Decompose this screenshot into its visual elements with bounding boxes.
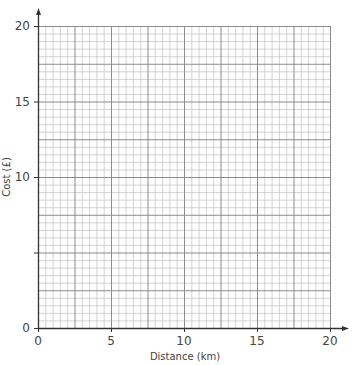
x-tick-label-15: 15 xyxy=(249,335,264,347)
y-axis-title: Cost (£) xyxy=(1,157,12,197)
graph-paper xyxy=(0,0,363,365)
y-tick-label-0: 0 xyxy=(0,322,30,334)
y-tick-label-20: 20 xyxy=(0,20,30,32)
x-tick-label-0: 0 xyxy=(34,335,42,347)
y-axis-arrow-icon xyxy=(36,8,41,15)
x-tick-label-10: 10 xyxy=(176,335,191,347)
y-tick-label-15: 15 xyxy=(0,96,30,108)
x-tick-label-20: 20 xyxy=(322,335,337,347)
x-tick-label-5: 5 xyxy=(107,335,115,347)
x-axis-arrow-icon xyxy=(342,326,349,331)
x-axis-title: Distance (km) xyxy=(150,351,220,362)
